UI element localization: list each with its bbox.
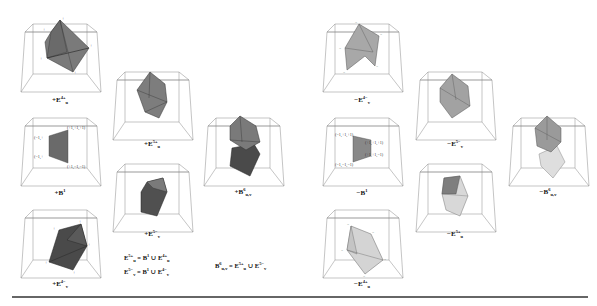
wireframe-box-icon: ++ +++ — [15, 198, 105, 290]
polytope-b6-uv — [230, 116, 260, 176]
formula-e5-u: E5+u = B1 ∪ E4+u — [124, 254, 170, 262]
polytope-neg-e4-u — [347, 226, 383, 274]
svg-text:+: + — [88, 242, 91, 247]
panel-plus-e5-v: +E5−v — [107, 152, 197, 244]
wireframe-box-icon: (+1,+1,+1) (−1,+ (−1,+ (+1,−1,−1) — [15, 106, 105, 198]
panel-minus-b6-uv: −B6u,v — [503, 106, 593, 198]
svg-text:+: + — [62, 16, 65, 21]
svg-text:−: − — [384, 257, 387, 262]
label-minus-b1: −B1 — [317, 189, 407, 197]
formula-b6-uv: B6u,v = E5+u ∪ E5−v — [215, 262, 266, 270]
panel-plus-e4-u: ++ +++ +E4+u — [15, 12, 105, 104]
formula-e5-v: E5−v = B1 ∪ E4−v — [124, 268, 169, 276]
svg-text:(−1,−1,−1): (−1,−1,−1) — [335, 162, 354, 168]
svg-text:+: + — [90, 43, 93, 48]
label-minus-b6-uv: −B6u,v — [503, 188, 593, 196]
label-plus-e5-u: +E5+u — [107, 140, 197, 148]
panel-minus-e5-v: −E5−v — [410, 60, 500, 152]
panel-plus-b1: (+1,+1,+1) (−1,+ (−1,+ (+1,−1,−1) +B1 — [15, 106, 105, 198]
label-minus-e4-v: −E4−v — [317, 96, 407, 104]
label-plus-e4-v: +E4−v — [15, 280, 105, 288]
wireframe-box-icon: (−1,+1,+1) (+1,+1,+1) (+1,+1,−1) (−1,−1,… — [317, 106, 407, 198]
horizontal-rule — [12, 296, 588, 298]
svg-text:−: − — [347, 222, 350, 227]
svg-text:+: + — [45, 260, 48, 265]
polytope-neg-e5-v — [440, 74, 470, 118]
panel-minus-b1: (−1,+1,+1) (+1,+1,+1) (+1,+1,−1) (−1,−1,… — [317, 106, 407, 198]
svg-text:(−1,+: (−1,+ — [34, 135, 44, 141]
panel-plus-b6-uv: +B6u,v — [198, 106, 288, 198]
svg-text:−: − — [376, 64, 379, 69]
panel-minus-e4-u: −− −−− −E4+u — [317, 198, 407, 290]
label-minus-e5-u: −E5+u — [410, 230, 500, 238]
panel-plus-e5-u: +E5+u — [107, 60, 197, 152]
wireframe-box-icon — [503, 106, 593, 198]
svg-text:+: + — [40, 56, 43, 61]
svg-text:(+1,+1,+1): (+1,+1,+1) — [67, 125, 86, 131]
panel-minus-e5-u: −E5+u — [410, 152, 500, 244]
polytope-neg-e4-v — [345, 24, 379, 70]
svg-text:−: − — [341, 248, 344, 253]
square-face — [49, 130, 68, 163]
svg-text:(+1,−1,−1): (+1,−1,−1) — [67, 164, 86, 170]
label-minus-e5-v: −E5−v — [410, 140, 500, 148]
label-plus-e5-v: +E5−v — [107, 230, 197, 238]
label-plus-e4-u: +E4+u — [15, 96, 105, 104]
svg-text:(−1,+1,+1): (−1,+1,+1) — [335, 132, 354, 138]
polytope-neg-b6-uv — [535, 116, 565, 178]
svg-text:(−1,+: (−1,+ — [34, 154, 44, 160]
panel-plus-e4-v: ++ +++ +E4−v — [15, 198, 105, 290]
label-plus-b1: +B1 — [15, 189, 105, 197]
svg-text:−: − — [372, 230, 375, 235]
polytope-e5-v — [141, 178, 167, 216]
wireframe-box-icon: ++ +++ — [15, 12, 105, 104]
svg-text:+: + — [79, 219, 82, 224]
svg-text:−: − — [380, 32, 383, 37]
svg-text:+: + — [43, 27, 46, 32]
polytope-e5-u — [137, 72, 167, 118]
panel-minus-e4-v: −− −−− −E4−v — [317, 12, 407, 104]
wireframe-box-icon — [198, 106, 288, 198]
svg-text:+: + — [53, 226, 56, 231]
polytope-e4-u — [45, 20, 89, 72]
wireframe-box-icon: −− −−− — [317, 12, 407, 104]
label-plus-b6-uv: +B6u,v — [198, 188, 288, 196]
label-minus-e4-u: −E4+u — [317, 280, 407, 288]
polytope-neg-e5-u — [442, 176, 468, 216]
svg-text:+: + — [73, 270, 76, 275]
wireframe-box-icon: −− −−− — [317, 198, 407, 290]
svg-text:−: − — [339, 46, 342, 51]
